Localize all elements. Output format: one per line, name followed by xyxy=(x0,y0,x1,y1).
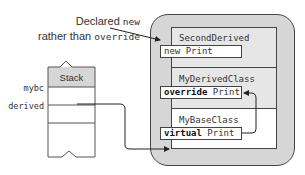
stack-body-outline xyxy=(48,67,95,157)
callout-arrow xyxy=(110,28,160,40)
stack-top-zigzag xyxy=(48,61,95,67)
connector-lines xyxy=(0,0,305,175)
mybc-reference-arrow xyxy=(77,104,169,149)
virtual-dispatch-arrow xyxy=(242,93,256,133)
